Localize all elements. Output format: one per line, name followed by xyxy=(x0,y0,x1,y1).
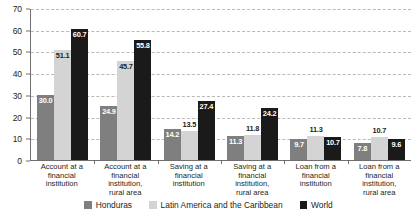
bar[interactable]: 11.3 xyxy=(307,136,324,160)
plot-area: 30.051.160.724.945.755.814.213.527.411.3… xyxy=(30,9,411,161)
bar[interactable]: 24.2 xyxy=(261,108,278,160)
bar-value-label: 27.4 xyxy=(200,103,214,110)
bar[interactable]: 60.7 xyxy=(71,29,88,160)
bar[interactable]: 24.9 xyxy=(100,106,117,160)
legend-label: Honduras xyxy=(96,200,132,210)
bar-value-label: 51.1 xyxy=(56,52,70,59)
bar[interactable]: 27.4 xyxy=(198,101,215,160)
bar[interactable]: 10.7 xyxy=(371,137,388,160)
legend-swatch xyxy=(149,201,157,209)
x-axis-category-label: Saving at afinancialinstitution,rural ar… xyxy=(221,163,285,197)
bar-value-label: 55.8 xyxy=(136,42,150,49)
bar[interactable]: 11.8 xyxy=(244,135,261,160)
bar-value-label: 30.0 xyxy=(39,97,53,104)
bar[interactable]: 13.5 xyxy=(181,131,198,160)
chart-legend: HondurasLatin America and the CaribbeanW… xyxy=(0,200,417,210)
bar-value-label: 11.8 xyxy=(246,125,259,132)
x-axis-category-label: Account at afinancialinstitution,rural a… xyxy=(94,163,158,197)
bar-value-label: 11.3 xyxy=(309,126,322,133)
y-axis-tick-label: 50 xyxy=(13,47,22,57)
legend-swatch xyxy=(300,201,308,209)
bar-value-label: 24.9 xyxy=(102,108,116,115)
bar-value-label: 45.7 xyxy=(119,63,133,70)
legend-item[interactable]: World xyxy=(300,200,333,210)
bar[interactable]: 9.6 xyxy=(388,139,405,160)
bar-value-label: 10.7 xyxy=(326,139,340,146)
x-axis-labels: Account at afinancialinstitutionAccount … xyxy=(30,163,411,197)
x-axis-category-label: Loan from afinancialinstitution,rural ar… xyxy=(348,163,412,197)
legend-label: World xyxy=(311,200,333,210)
y-axis-tick-label: 30 xyxy=(13,91,22,101)
bar-group: 7.810.79.6 xyxy=(348,9,411,160)
x-axis-category-label-line: institution xyxy=(285,180,347,189)
bar-value-label: 9.7 xyxy=(294,141,304,148)
y-axis-tick-label: 20 xyxy=(13,113,22,123)
bar-group: 30.051.160.7 xyxy=(31,9,94,160)
y-axis-tick-label: 10 xyxy=(13,134,22,144)
bar-value-label: 13.5 xyxy=(183,121,197,128)
bar-value-label: 10.7 xyxy=(373,127,387,134)
y-axis-tick-label: 0 xyxy=(17,156,22,166)
bar-group: 9.711.310.7 xyxy=(284,9,347,160)
y-axis-tick-label: 60 xyxy=(13,26,22,36)
bar-group: 24.945.755.8 xyxy=(94,9,157,160)
x-axis-category-label-line: institution xyxy=(158,180,220,189)
bar[interactable]: 55.8 xyxy=(134,40,151,160)
x-axis-category-label-line: rural area xyxy=(222,189,284,198)
bar[interactable]: 14.2 xyxy=(164,129,181,160)
legend-item[interactable]: Latin America and the Caribbean xyxy=(149,200,282,210)
bar-value-label: 24.2 xyxy=(263,110,277,117)
bar-value-label: 11.3 xyxy=(229,138,242,145)
x-axis-category-label-line: rural area xyxy=(95,189,157,198)
bar-groups: 30.051.160.724.945.755.814.213.527.411.3… xyxy=(31,9,411,160)
x-axis-category-label: Saving at afinancialinstitution xyxy=(157,163,221,197)
bar[interactable]: 9.7 xyxy=(290,139,307,160)
bar-value-label: 60.7 xyxy=(73,31,87,38)
x-axis-category-label-line: rural area xyxy=(349,189,411,198)
x-axis-category-label-line: institution xyxy=(31,180,93,189)
bar[interactable]: 30.0 xyxy=(37,95,54,160)
bar-chart: 010203040506070 30.051.160.724.945.755.8… xyxy=(0,0,417,217)
bar-group: 14.213.527.4 xyxy=(158,9,221,160)
legend-item[interactable]: Honduras xyxy=(84,200,132,210)
bar[interactable]: 45.7 xyxy=(117,61,134,160)
bar-group: 11.311.824.2 xyxy=(221,9,284,160)
y-axis-tick-label: 70 xyxy=(13,4,22,14)
bar[interactable]: 51.1 xyxy=(54,50,71,160)
bar[interactable]: 10.7 xyxy=(324,137,341,160)
bar[interactable]: 11.3 xyxy=(227,136,244,160)
legend-label: Latin America and the Caribbean xyxy=(161,200,283,210)
bar-value-label: 9.6 xyxy=(391,141,401,148)
legend-swatch xyxy=(84,201,92,209)
y-axis-tick-label: 40 xyxy=(13,69,22,79)
x-axis-category-label: Account at afinancialinstitution xyxy=(30,163,94,197)
bar[interactable]: 7.8 xyxy=(354,143,371,160)
x-axis-category-label: Loan from afinancialinstitution xyxy=(284,163,348,197)
bar-value-label: 14.2 xyxy=(166,131,180,138)
y-axis: 010203040506070 xyxy=(0,9,30,161)
bar-value-label: 7.8 xyxy=(357,145,367,152)
